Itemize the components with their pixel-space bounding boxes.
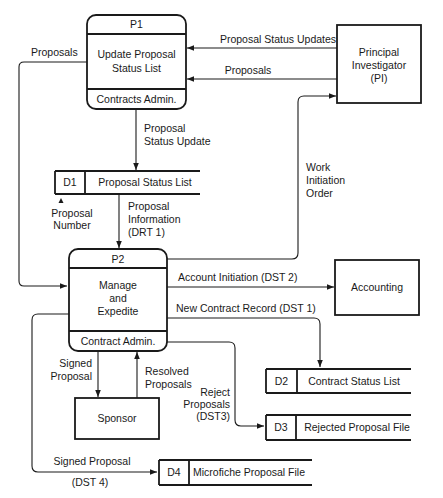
store-d2[interactable]: D2 Contract Status List: [266, 369, 411, 393]
entity-pi-label: (PI): [371, 72, 388, 84]
store-d4-id: D4: [167, 466, 181, 478]
svg-text:Initiation: Initiation: [306, 174, 345, 186]
entity-sponsor-label: Sponsor: [97, 412, 137, 424]
store-d3-name: Rejected Proposal File: [304, 421, 410, 433]
entity-accounting[interactable]: Accounting: [335, 260, 419, 315]
flow-signed-proposal: Signed Proposal: [51, 351, 98, 397]
svg-text:Resolved: Resolved: [145, 365, 189, 377]
flow-proposal-number: Proposal Number: [51, 198, 92, 231]
flow-proposal-status-updates: Proposal Status Updates: [187, 33, 337, 48]
svg-text:(DRT 1): (DRT 1): [128, 226, 165, 238]
store-d3-id: D3: [274, 421, 288, 433]
flow-proposal-information: Proposal Information (DRT 1): [119, 194, 181, 248]
svg-text:Reject: Reject: [200, 386, 230, 398]
svg-text:Order: Order: [306, 187, 333, 199]
svg-text:Proposal: Proposal: [51, 207, 92, 219]
svg-text:Account Initiation (DST 2): Account Initiation (DST 2): [178, 271, 297, 283]
entity-pi-label: Principal: [359, 46, 399, 58]
svg-text:Proposals: Proposals: [145, 378, 192, 390]
entity-sponsor[interactable]: Sponsor: [75, 398, 159, 439]
entity-principal-investigator[interactable]: Principal Investigator (PI): [337, 25, 421, 103]
svg-text:(DST3): (DST3): [196, 410, 230, 422]
process-p1-id: P1: [130, 18, 143, 30]
process-p2-owner: Contract Admin.: [81, 335, 156, 347]
svg-text:New Contract Record (DST 1): New Contract Record (DST 1): [176, 302, 316, 314]
svg-text:Proposal Status Updates: Proposal Status Updates: [220, 33, 336, 45]
svg-text:Proposals: Proposals: [183, 398, 230, 410]
svg-text:Proposal: Proposal: [51, 370, 92, 382]
store-d2-name: Contract Status List: [308, 375, 400, 387]
flow-proposal-status-update: Proposal Status Update: [136, 109, 211, 170]
store-d1-name: Proposal Status List: [98, 176, 191, 188]
entity-accounting-label: Accounting: [351, 281, 403, 293]
flow-account-initiation: Account Initiation (DST 2): [167, 271, 334, 287]
svg-text:Signed Proposal: Signed Proposal: [53, 455, 130, 467]
store-d2-id: D2: [275, 375, 289, 387]
svg-text:Proposal: Proposal: [128, 200, 169, 212]
svg-text:Information: Information: [128, 213, 181, 225]
store-d3[interactable]: D3 Rejected Proposal File: [266, 415, 411, 440]
svg-text:Work: Work: [306, 161, 331, 173]
flow-work-initiation-order: Work Initiation Order: [166, 96, 345, 259]
svg-text:Signed: Signed: [59, 357, 92, 369]
flow-new-contract-record: New Contract Record (DST 1): [167, 302, 320, 367]
process-p1-name: Update Proposal: [97, 48, 175, 60]
svg-text:Proposals: Proposals: [31, 46, 78, 58]
process-p2-name: Manage: [99, 279, 137, 291]
flow-resolved-proposals: Resolved Proposals: [137, 352, 192, 398]
svg-text:Number: Number: [53, 219, 91, 231]
data-flow-diagram: P1 Update Proposal Status List Contracts…: [0, 0, 443, 498]
process-p2-name: and: [109, 292, 127, 304]
process-p2-id: P2: [112, 253, 125, 265]
process-p1-owner: Contracts Admin.: [97, 93, 177, 105]
svg-text:Proposal: Proposal: [144, 122, 185, 134]
process-p1-name: Status List: [112, 62, 161, 74]
store-d1[interactable]: D1 Proposal Status List: [55, 171, 200, 194]
store-d4-name: Microfiche Proposal File: [193, 466, 305, 478]
process-p2-name: Expedite: [98, 305, 139, 317]
store-d1-id: D1: [63, 176, 77, 188]
process-p1[interactable]: P1 Update Proposal Status List Contracts…: [87, 15, 186, 109]
svg-text:Status Update: Status Update: [144, 135, 211, 147]
svg-text:(DST 4): (DST 4): [72, 476, 109, 488]
process-p2[interactable]: P2 Manage and Expedite Contract Admin.: [69, 249, 167, 351]
store-d4[interactable]: D4 Microfiche Proposal File: [159, 460, 312, 485]
entity-pi-label: Investigator: [352, 59, 407, 71]
flow-proposals-from-pi: Proposals: [187, 64, 337, 79]
svg-text:Proposals: Proposals: [225, 64, 272, 76]
